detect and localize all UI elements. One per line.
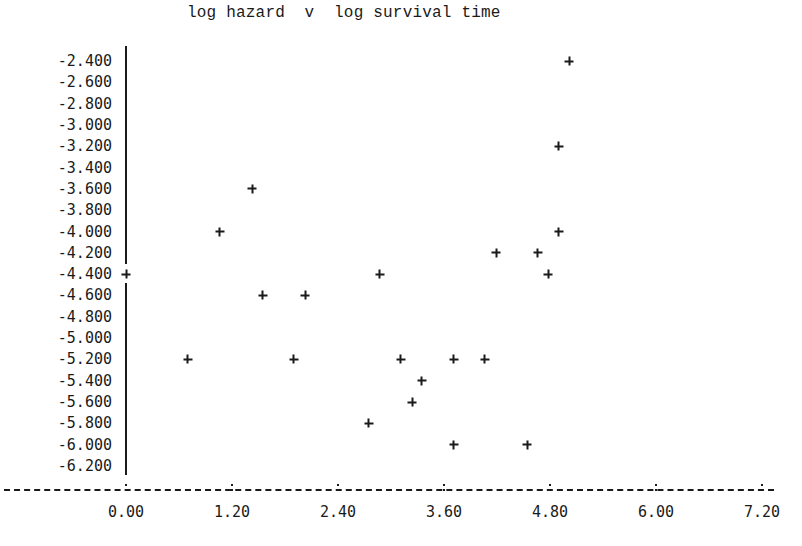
y-tick-label: -4.400 <box>0 266 112 282</box>
y-tick-label: -5.800 <box>0 415 112 431</box>
data-point-plus-marker <box>565 57 574 66</box>
y-tick-label: -3.200 <box>0 138 112 154</box>
x-tick-mark <box>443 484 445 492</box>
data-point-plus-marker <box>375 270 384 279</box>
data-point-plus-marker <box>248 184 257 193</box>
y-tick-label: -6.000 <box>0 437 112 453</box>
y-tick-label: -5.000 <box>0 330 112 346</box>
data-point-plus-marker <box>301 291 310 300</box>
data-point-plus-marker <box>396 355 405 364</box>
x-tick-label: 4.80 <box>532 503 568 521</box>
y-tick-label: -6.200 <box>0 458 112 474</box>
data-point-plus-marker <box>122 270 131 279</box>
x-tick-mark <box>655 484 657 492</box>
x-tick-label: 6.00 <box>638 503 674 521</box>
data-point-plus-marker <box>554 142 563 151</box>
y-tick-label: -4.000 <box>0 224 112 240</box>
y-tick-label: -2.600 <box>0 74 112 90</box>
x-tick-label: 0.00 <box>108 503 144 521</box>
x-tick-label: 3.60 <box>426 503 462 521</box>
data-point-plus-marker <box>289 355 298 364</box>
y-tick-label: -5.600 <box>0 394 112 410</box>
x-tick-mark <box>761 484 763 492</box>
y-tick-label: -5.400 <box>0 373 112 389</box>
x-tick-mark <box>231 484 233 492</box>
y-tick-label: -2.800 <box>0 96 112 112</box>
x-axis-dashed-line <box>4 489 774 491</box>
x-tick-mark <box>337 484 339 492</box>
y-tick-label: -3.000 <box>0 117 112 133</box>
data-point-plus-marker <box>417 376 426 385</box>
y-tick-label: -3.400 <box>0 160 112 176</box>
data-point-plus-marker <box>408 398 417 407</box>
x-tick-mark <box>549 484 551 492</box>
y-axis-line-lower <box>125 283 127 475</box>
data-point-plus-marker <box>544 270 553 279</box>
data-point-plus-marker <box>364 419 373 428</box>
y-tick-label: -2.400 <box>0 53 112 69</box>
data-point-plus-marker <box>492 248 501 257</box>
data-point-plus-marker <box>533 248 542 257</box>
x-tick-label: 2.40 <box>320 503 356 521</box>
y-axis-line-upper <box>125 46 127 264</box>
y-tick-label: -3.800 <box>0 202 112 218</box>
chart-title: log hazard v log survival time <box>187 4 501 22</box>
data-point-plus-marker <box>183 355 192 364</box>
y-tick-label: -3.600 <box>0 181 112 197</box>
x-tick-label: 7.20 <box>744 503 780 521</box>
data-point-plus-marker <box>258 291 267 300</box>
data-point-plus-marker <box>449 440 458 449</box>
y-tick-label: -5.200 <box>0 351 112 367</box>
data-point-plus-marker <box>554 227 563 236</box>
x-tick-label: 1.20 <box>214 503 250 521</box>
data-point-plus-marker <box>215 227 224 236</box>
y-tick-label: -4.800 <box>0 309 112 325</box>
y-tick-label: -4.600 <box>0 287 112 303</box>
data-point-plus-marker <box>480 355 489 364</box>
data-point-plus-marker <box>449 355 458 364</box>
data-point-plus-marker <box>523 440 532 449</box>
x-tick-mark <box>125 484 127 492</box>
y-tick-label: -4.200 <box>0 245 112 261</box>
